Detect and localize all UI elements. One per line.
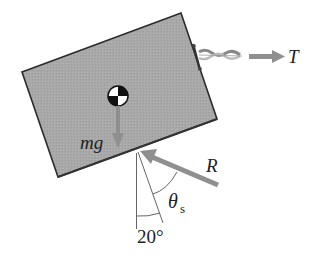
theta-s-subscript: s	[180, 201, 185, 216]
tension-label: T	[288, 46, 300, 67]
theta-s-label: θ	[168, 190, 178, 212]
angle-20-arc	[137, 213, 161, 216]
free-body-diagram: T mg R θ s 20°	[0, 0, 309, 260]
reaction-label: R	[205, 155, 218, 176]
rope	[199, 50, 242, 59]
angle-20-label: 20°	[137, 226, 164, 247]
center-of-gravity-icon	[108, 86, 128, 106]
tension-arrow	[249, 50, 285, 63]
weight-label: mg	[80, 132, 103, 153]
